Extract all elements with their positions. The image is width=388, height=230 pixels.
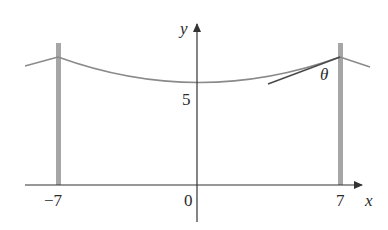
catenary-cable [58, 57, 340, 83]
x-tick-0: 0 [184, 192, 193, 209]
left-pole [56, 43, 61, 185]
y-tick-5: 5 [182, 91, 191, 108]
x-tick-7: 7 [336, 192, 345, 209]
theta-label: θ [320, 66, 328, 83]
tangent-line [268, 57, 340, 84]
cable-left-outer [25, 57, 58, 66]
catenary-diagram: y 5 θ −7 0 7 x [0, 0, 388, 230]
y-axis-label: y [180, 20, 188, 37]
x-axis-label: x [365, 192, 373, 209]
x-tick-neg7: −7 [44, 192, 62, 209]
right-pole [338, 43, 343, 185]
cable-right-outer [340, 57, 370, 67]
